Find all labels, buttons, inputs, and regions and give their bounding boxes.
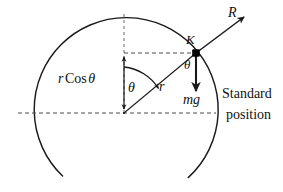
label-r-cos-theta: rCosθ bbox=[58, 72, 95, 86]
label-radius-r: r bbox=[159, 80, 164, 94]
label-normal-reaction-R: R bbox=[228, 6, 237, 20]
label-standard-line-1: Standard bbox=[222, 87, 272, 101]
physics-diagram: rCosθ θ r K θ R mg Standard position bbox=[0, 0, 283, 192]
normal-reaction-vector bbox=[196, 17, 244, 53]
label-ball-K: K bbox=[186, 33, 195, 46]
label-theta-at-ball: θ bbox=[184, 58, 190, 71]
label-weight-mg: mg bbox=[183, 93, 200, 107]
center-point-C bbox=[123, 112, 125, 114]
label-cos-function: Cos bbox=[63, 71, 88, 86]
label-theta-symbol: θ bbox=[88, 71, 95, 86]
ball-point-K bbox=[192, 49, 200, 57]
label-theta-at-center: θ bbox=[128, 81, 135, 95]
label-standard-line-2: position bbox=[226, 108, 271, 122]
